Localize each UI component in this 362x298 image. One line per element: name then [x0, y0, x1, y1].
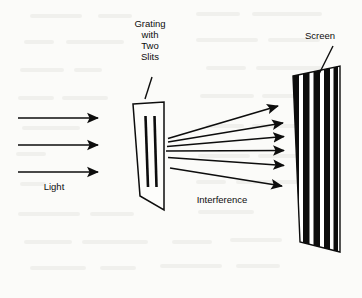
grating-plate — [133, 102, 164, 210]
fringe-dark-3 — [314, 60, 321, 260]
interference-arrow-2 — [168, 123, 283, 142]
interference-arrow-6 — [170, 168, 282, 186]
incident-light-beams — [18, 118, 98, 172]
grating-leader-line — [145, 77, 152, 99]
light-label: Light — [44, 181, 65, 192]
grating-label-line-2: with — [141, 29, 159, 40]
interference-beams — [166, 106, 284, 186]
fringe-dark-4 — [324, 60, 330, 260]
diagram-canvas: Grating with Two Slits Screen Light Inte… — [0, 0, 362, 298]
optics-diagram: Grating with Two Slits Screen Light Inte… — [0, 0, 362, 298]
interference-arrow-3 — [167, 137, 284, 147]
interference-arrow-4 — [166, 151, 284, 152]
fringe-dark-2 — [303, 60, 310, 260]
interference-arrow-5 — [168, 158, 284, 166]
screen — [293, 60, 343, 260]
grating-label-line-1: Grating — [134, 18, 165, 29]
fringe-dark-5 — [334, 60, 339, 260]
grating-outline — [133, 102, 164, 210]
interference-label: Interference — [197, 194, 248, 205]
grating-label-line-3: Two — [141, 40, 158, 51]
screen-label: Screen — [305, 30, 335, 41]
grating-label-line-4: Slits — [141, 51, 159, 62]
